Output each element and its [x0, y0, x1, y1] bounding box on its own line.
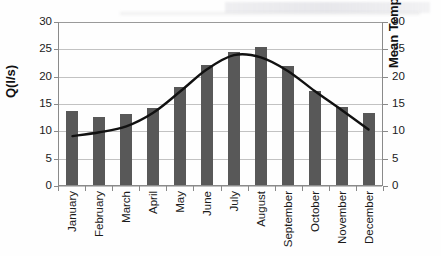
x-axis-category-label: February [93, 191, 105, 237]
x-axis-category-labels: JanuaryFebruaryMarchAprilMayJuneJulyAugu… [58, 190, 383, 254]
y-axis-left-tick-label: 5 [26, 153, 52, 164]
x-axis-category-label: November [336, 191, 348, 244]
x-axis-label-cell: June [193, 190, 220, 254]
y-axis-right-tick-label: 10 [392, 125, 418, 136]
x-axis-category-label: June [201, 191, 213, 216]
y-axis-right-tick-mark [383, 159, 388, 160]
y-axis-right-tick-label: 25 [392, 43, 418, 54]
y-axis-left-title: Q(l/s) [3, 65, 18, 98]
x-axis-tick-mark [383, 186, 384, 191]
x-axis-label-cell: November [329, 190, 356, 254]
x-axis-label-cell: September [275, 190, 302, 254]
x-axis-category-label: May [174, 191, 186, 213]
y-axis-right-tick-label: 20 [392, 71, 418, 82]
y-axis-left-tick-label: 25 [26, 43, 52, 54]
x-axis-label-cell: March [112, 190, 139, 254]
temperature-line-path [72, 54, 368, 136]
temperature-line-series [59, 22, 382, 185]
x-axis-label-cell: July [220, 190, 247, 254]
chart-container: Q(l/s) Mean Temp.(°C) 051015202530 05101… [0, 0, 441, 256]
x-axis-label-cell: May [166, 190, 193, 254]
y-axis-left-tick-label: 10 [26, 125, 52, 136]
plot-area [58, 22, 383, 186]
y-axis-right-title: Mean Temp.(°C) [386, 0, 401, 68]
y-axis-right-tick-mark [383, 104, 388, 105]
y-axis-left-tick-label: 15 [26, 98, 52, 109]
y-axis-right-tick-label: 30 [392, 16, 418, 27]
x-axis-label-cell: April [139, 190, 166, 254]
y-axis-right-tick-label: 0 [392, 180, 418, 191]
x-axis-category-label: September [282, 191, 294, 247]
x-axis-category-label: December [363, 191, 375, 244]
x-axis-label-cell: October [302, 190, 329, 254]
y-axis-right-tick-label: 5 [392, 153, 418, 164]
y-axis-left-tick-label: 0 [26, 180, 52, 191]
x-axis-category-label: August [255, 191, 267, 227]
y-axis-right-tick-label: 15 [392, 98, 418, 109]
x-axis-label-cell: February [85, 190, 112, 254]
scan-bleedthrough-artifact-secondary [120, 12, 420, 15]
y-axis-right-tick-mark [383, 22, 388, 23]
x-axis-category-label: April [147, 191, 159, 214]
y-axis-right-tick-mark [383, 77, 388, 78]
x-axis-category-label: October [309, 191, 321, 232]
y-axis-left-tick-label: 20 [26, 71, 52, 82]
x-axis-label-cell: January [58, 190, 85, 254]
y-axis-right-tick-mark [383, 131, 388, 132]
x-axis-label-cell: December [356, 190, 383, 254]
x-axis-category-label: July [228, 191, 240, 211]
y-axis-right-tick-mark [383, 49, 388, 50]
y-axis-left-tick-label: 30 [26, 16, 52, 27]
x-axis-category-label: March [120, 191, 132, 223]
x-axis-label-cell: August [248, 190, 275, 254]
x-axis-category-label: January [66, 191, 78, 232]
